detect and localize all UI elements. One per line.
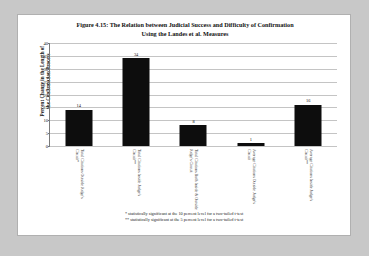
footnotes: * statistically significant at the 10 pe… [18, 211, 350, 223]
bar-group: 16Average Citations Inside Judge'sCircui… [280, 43, 337, 146]
y-tick-label: 40 [43, 41, 48, 46]
bar-group: 34Total Citations Inside Judge'sCircuit*… [107, 43, 164, 146]
y-tick-mark [48, 146, 50, 147]
y-tick-label: 5 [46, 131, 48, 136]
bar-value-label: 16 [306, 98, 310, 103]
bar-value-label: 8 [192, 119, 194, 124]
chart-title-line-2: Using the Landes et al. Measures [30, 30, 340, 39]
y-tick-label: 15 [43, 105, 48, 110]
gridline [50, 146, 337, 147]
y-tick-label: 25 [43, 79, 48, 84]
figure-panel: Figure 4.15: The Relation between Judici… [17, 14, 351, 236]
footnote-5-percent: ** statistically significant at the 5 pe… [18, 217, 350, 223]
bar-value-label: 14 [76, 103, 80, 108]
chart-title: Figure 4.15: The Relation between Judici… [30, 21, 340, 38]
y-tick-label: 35 [43, 53, 48, 58]
bar [65, 110, 92, 146]
bar-group: 8Total Citations Both Inside & OutsideJu… [165, 43, 222, 146]
y-tick-label: 30 [43, 66, 48, 71]
y-tick-label: 10 [43, 118, 48, 123]
y-tick-label: 20 [43, 92, 48, 97]
page-background: Figure 4.15: The Relation between Judici… [0, 0, 369, 256]
bar-value-label: 34 [134, 52, 138, 57]
plot-area: 051015202530354014Total Citations Outsid… [49, 43, 337, 147]
chart-title-line-1: Figure 4.15: The Relation between Judici… [76, 21, 293, 28]
bar [295, 105, 322, 146]
bar-value-label: 1 [250, 137, 252, 142]
bar-group: 14Total Citations Outside Judge'sCircuit… [50, 43, 107, 146]
bar-group: 1Average Citations Outside Judge'sCircui… [222, 43, 279, 146]
y-tick-label: 0 [46, 144, 48, 149]
bar [237, 143, 264, 146]
bar [123, 58, 150, 146]
bar [180, 125, 207, 146]
